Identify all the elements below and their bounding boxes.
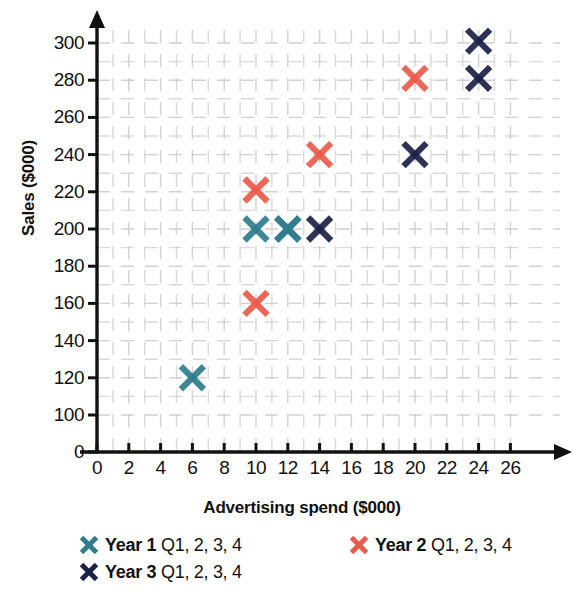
y-tick-label: 280 bbox=[22, 70, 84, 89]
x-tick-label: 6 bbox=[177, 458, 207, 477]
legend-series-detail: Q1, 2, 3, 4 bbox=[426, 535, 511, 555]
legend-series-detail: Q1, 2, 3, 4 bbox=[156, 535, 241, 555]
x-tick-label: 24 bbox=[464, 458, 494, 477]
legend-series-name: Year 2 bbox=[375, 535, 426, 555]
y-tick-label: 260 bbox=[22, 107, 84, 126]
x-tick-label: 20 bbox=[400, 458, 430, 477]
x-tick-label: 8 bbox=[209, 458, 239, 477]
y-tick-label: 120 bbox=[22, 368, 84, 387]
legend-label: Year 1 Q1, 2, 3, 4 bbox=[105, 535, 242, 556]
y-tick-label: 140 bbox=[22, 331, 84, 350]
legend-series-name: Year 1 bbox=[105, 535, 156, 555]
y-tick-label: 220 bbox=[22, 182, 84, 201]
legend-label: Year 2 Q1, 2, 3, 4 bbox=[375, 535, 512, 556]
legend-row: Year 3 Q1, 2, 3, 4 bbox=[78, 561, 574, 588]
x-tick-label: 4 bbox=[146, 458, 176, 477]
legend-item[interactable]: Year 2 Q1, 2, 3, 4 bbox=[348, 534, 512, 561]
y-tick-label: 200 bbox=[22, 219, 84, 238]
scatter-chart: Sales ($000) Advertising spend ($000) 01… bbox=[0, 0, 574, 596]
x-marker-icon bbox=[78, 534, 100, 556]
y-tick-label: 180 bbox=[22, 256, 84, 275]
x-tick-label: 22 bbox=[432, 458, 462, 477]
x-tick-label: 0 bbox=[82, 458, 112, 477]
legend-series-name: Year 3 bbox=[105, 562, 156, 582]
x-tick-label: 10 bbox=[241, 458, 271, 477]
legend-item[interactable]: Year 1 Q1, 2, 3, 4 bbox=[78, 534, 348, 561]
y-tick-label: 0 bbox=[22, 442, 84, 461]
x-tick-label: 14 bbox=[305, 458, 335, 477]
legend-series-detail: Q1, 2, 3, 4 bbox=[156, 562, 241, 582]
legend-row: Year 1 Q1, 2, 3, 4Year 2 Q1, 2, 3, 4 bbox=[78, 534, 574, 561]
x-marker-icon bbox=[348, 534, 370, 556]
x-tick-label: 26 bbox=[495, 458, 525, 477]
x-tick-label: 2 bbox=[114, 458, 144, 477]
x-tick-label: 12 bbox=[273, 458, 303, 477]
x-tick-label: 18 bbox=[368, 458, 398, 477]
y-tick-label: 160 bbox=[22, 293, 84, 312]
y-tick-label: 300 bbox=[22, 33, 84, 52]
legend-label: Year 3 Q1, 2, 3, 4 bbox=[105, 562, 242, 583]
legend-item[interactable]: Year 3 Q1, 2, 3, 4 bbox=[78, 561, 348, 588]
y-tick-label: 240 bbox=[22, 145, 84, 164]
chart-legend: Year 1 Q1, 2, 3, 4Year 2 Q1, 2, 3, 4Year… bbox=[78, 534, 574, 588]
x-axis-label: Advertising spend ($000) bbox=[97, 498, 507, 518]
x-tick-label: 16 bbox=[336, 458, 366, 477]
y-tick-label: 100 bbox=[22, 405, 84, 424]
x-marker-icon bbox=[78, 561, 100, 583]
